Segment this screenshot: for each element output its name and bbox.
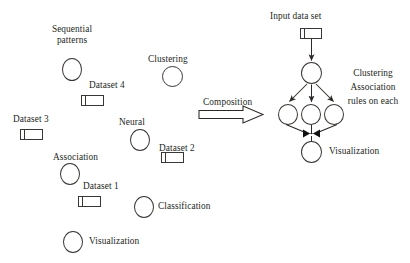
connector-overlay — [0, 0, 410, 263]
figure-canvas: Sequential patterns Clustering Dataset 4… — [0, 0, 410, 263]
composition-block-arrow — [199, 106, 263, 123]
edge-root-to-branch-right — [316, 84, 334, 102]
edge-root-to-branch-left — [290, 84, 308, 102]
